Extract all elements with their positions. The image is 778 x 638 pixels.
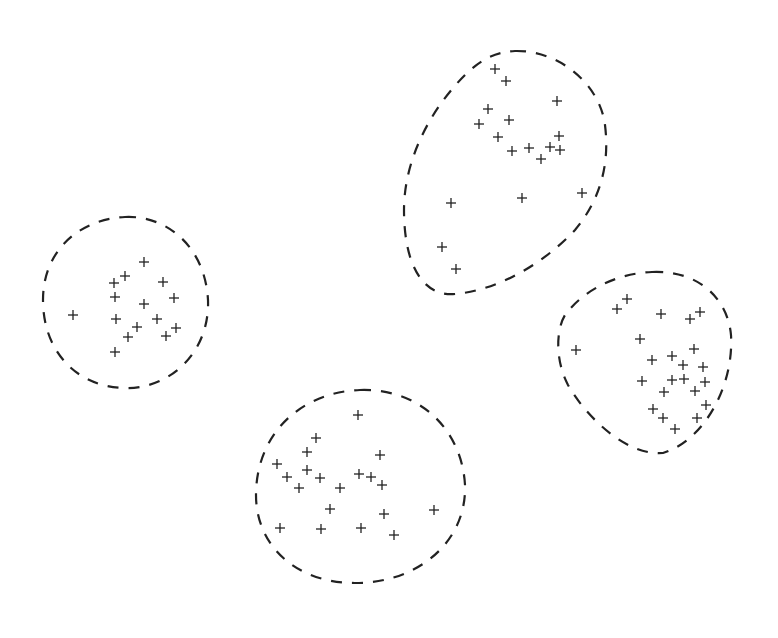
plus-marker-icon xyxy=(161,331,171,341)
plus-marker-icon xyxy=(302,465,312,475)
plus-marker-icon xyxy=(68,310,78,320)
plus-marker-icon xyxy=(335,483,345,493)
plus-marker-icon xyxy=(375,450,385,460)
plus-marker-icon xyxy=(446,198,456,208)
cluster-bottom-dashed-contour xyxy=(256,390,465,583)
plus-marker-icon xyxy=(667,351,677,361)
cluster-bottom-points xyxy=(272,410,439,540)
plus-marker-icon xyxy=(670,424,680,434)
plus-marker-icon xyxy=(656,309,666,319)
plus-marker-icon xyxy=(690,386,700,396)
cluster-contours xyxy=(43,51,731,583)
plus-marker-icon xyxy=(311,433,321,443)
plus-marker-icon xyxy=(316,524,326,534)
plus-marker-icon xyxy=(555,145,565,155)
cluster-diagram-canvas xyxy=(0,0,778,638)
plus-marker-icon xyxy=(132,322,142,332)
plus-marker-icon xyxy=(536,154,546,164)
plus-marker-icon xyxy=(366,472,376,482)
plus-marker-icon xyxy=(120,271,130,281)
plus-marker-icon xyxy=(152,314,162,324)
cluster-top-dashed-contour xyxy=(404,51,606,294)
cluster-points xyxy=(68,64,711,540)
plus-marker-icon xyxy=(110,347,120,357)
plus-marker-icon xyxy=(501,76,511,86)
plus-marker-icon xyxy=(490,64,500,74)
plus-marker-icon xyxy=(612,304,622,314)
plus-marker-icon xyxy=(701,400,711,410)
cluster-left-points xyxy=(68,257,181,357)
plus-marker-icon xyxy=(689,344,699,354)
plus-marker-icon xyxy=(158,277,168,287)
plus-marker-icon xyxy=(429,505,439,515)
plus-marker-icon xyxy=(169,293,179,303)
plus-marker-icon xyxy=(123,332,133,342)
plus-marker-icon xyxy=(637,376,647,386)
plus-marker-icon xyxy=(507,146,517,156)
plus-marker-icon xyxy=(700,377,710,387)
plus-marker-icon xyxy=(272,459,282,469)
plus-marker-icon xyxy=(552,96,562,106)
plus-marker-icon xyxy=(698,362,708,372)
plus-marker-icon xyxy=(554,131,564,141)
plus-marker-icon xyxy=(679,374,689,384)
plus-marker-icon xyxy=(685,314,695,324)
plus-marker-icon xyxy=(356,523,366,533)
plus-marker-icon xyxy=(577,188,587,198)
plus-marker-icon xyxy=(139,299,149,309)
plus-marker-icon xyxy=(483,104,493,114)
plus-marker-icon xyxy=(571,345,581,355)
plus-marker-icon xyxy=(110,292,120,302)
plus-marker-icon xyxy=(111,314,121,324)
cluster-top-points xyxy=(437,64,587,274)
plus-marker-icon xyxy=(275,523,285,533)
plus-marker-icon xyxy=(648,404,658,414)
plus-marker-icon xyxy=(692,413,702,423)
plus-marker-icon xyxy=(524,143,534,153)
plus-marker-icon xyxy=(659,387,669,397)
plus-marker-icon xyxy=(171,323,181,333)
plus-marker-icon xyxy=(545,142,555,152)
plus-marker-icon xyxy=(294,483,304,493)
plus-marker-icon xyxy=(667,375,677,385)
plus-marker-icon xyxy=(354,469,364,479)
cluster-left-dashed-contour xyxy=(43,217,208,388)
plus-marker-icon xyxy=(325,504,335,514)
plus-marker-icon xyxy=(678,360,688,370)
plus-marker-icon xyxy=(437,242,447,252)
plus-marker-icon xyxy=(389,530,399,540)
plus-marker-icon xyxy=(109,278,119,288)
cluster-right-points xyxy=(571,294,711,434)
plus-marker-icon xyxy=(282,472,292,482)
plus-marker-icon xyxy=(493,132,503,142)
plus-marker-icon xyxy=(379,509,389,519)
plus-marker-icon xyxy=(504,115,514,125)
plus-marker-icon xyxy=(377,480,387,490)
plus-marker-icon xyxy=(635,334,645,344)
plus-marker-icon xyxy=(647,355,657,365)
plus-marker-icon xyxy=(315,473,325,483)
plus-marker-icon xyxy=(451,264,461,274)
plus-marker-icon xyxy=(302,447,312,457)
plus-marker-icon xyxy=(474,119,484,129)
plus-marker-icon xyxy=(353,410,363,420)
plus-marker-icon xyxy=(139,257,149,267)
plus-marker-icon xyxy=(517,193,527,203)
plus-marker-icon xyxy=(622,294,632,304)
cluster-right-dashed-contour xyxy=(558,272,731,453)
plus-marker-icon xyxy=(695,307,705,317)
plus-marker-icon xyxy=(658,413,668,423)
